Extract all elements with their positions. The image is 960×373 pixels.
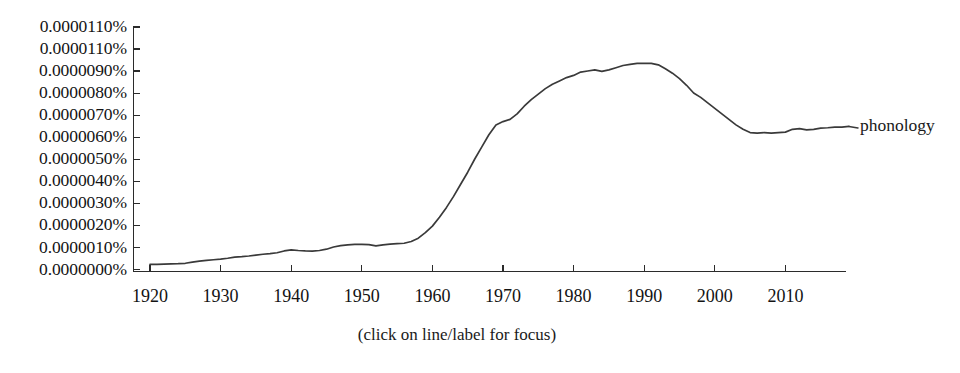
ngram-chart: 0.0000110%0.0000110%0.0000090%0.0000080%… <box>0 0 960 373</box>
x-axis-tick-label: 2000 <box>697 286 733 306</box>
x-axis-tick-label: 1930 <box>203 286 239 306</box>
x-axis-tick-label: 2010 <box>767 286 803 306</box>
phonology-series-label[interactable]: phonology <box>860 116 935 135</box>
x-axis-tick-label: 1940 <box>273 286 309 306</box>
x-axis-tick-label: 1980 <box>556 286 592 306</box>
x-axis-tick-label: 1920 <box>132 286 168 306</box>
y-axis-tick-marks <box>134 27 141 270</box>
x-axis-tick-label: 1970 <box>485 286 521 306</box>
axes-group <box>134 26 846 272</box>
x-axis-tick-label: 1950 <box>344 286 380 306</box>
phonology-line[interactable] <box>150 63 849 264</box>
focus-hint: (click on line/label for focus) <box>0 325 960 344</box>
series-group <box>150 63 858 264</box>
x-axis-tick-label: 1990 <box>626 286 662 306</box>
phonology-leader-line <box>849 126 858 128</box>
x-axis-tick-label: 1960 <box>414 286 450 306</box>
focus-hint-text: (click on line/label for focus) <box>358 325 556 344</box>
plot-area[interactable] <box>0 0 960 373</box>
x-axis-tick-marks <box>150 265 785 272</box>
